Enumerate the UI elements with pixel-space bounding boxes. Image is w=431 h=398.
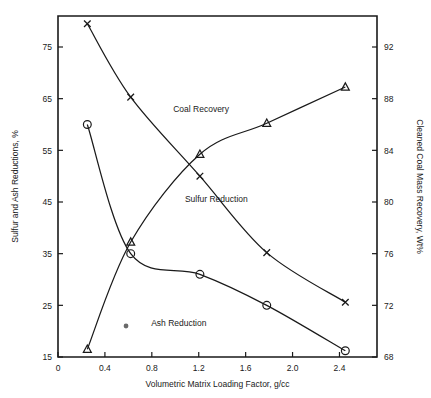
series-curve-coal-recovery xyxy=(87,87,345,349)
y2-axis-label: Cleaned Coal Mass Recovery, Wt% xyxy=(415,119,425,254)
series-label-sulfur-reduction: Sulfur Reduction xyxy=(185,194,248,204)
y-tick-label: 15 xyxy=(43,352,53,362)
y-tick-label: 35 xyxy=(43,249,53,259)
series-marker-sulfur-reduction xyxy=(342,299,349,306)
series-curve-ash-reduction xyxy=(87,125,345,351)
series-marker-ash-reduction xyxy=(83,121,91,129)
y2-tick-label: 88 xyxy=(384,94,394,104)
plot-frame xyxy=(58,16,377,357)
y2-tick-label: 68 xyxy=(384,352,394,362)
chart-svg: 00.40.81.21.62.02.4152535455565756872768… xyxy=(0,0,431,398)
x-tick-label: 1.2 xyxy=(193,363,205,373)
series-marker-sulfur-reduction xyxy=(127,94,134,101)
y-axis-label: Sulfur and Ash Reductions, % xyxy=(10,130,20,243)
stray-point-marker xyxy=(124,324,129,329)
series-marker-ash-reduction xyxy=(341,347,349,355)
y2-tick-label: 76 xyxy=(384,249,394,259)
x-tick-label: 0.8 xyxy=(146,363,158,373)
y-tick-label: 55 xyxy=(43,146,53,156)
chart-figure: 00.40.81.21.62.02.4152535455565756872768… xyxy=(0,0,431,398)
series-marker-sulfur-reduction xyxy=(84,20,91,27)
x-axis-label: Volumetric Matrix Loading Factor, g/cc xyxy=(145,379,290,389)
y-tick-label: 65 xyxy=(43,94,53,104)
x-tick-label: 0.4 xyxy=(99,363,111,373)
y2-tick-label: 72 xyxy=(384,301,394,311)
series-curve-sulfur-reduction xyxy=(87,24,345,302)
x-tick-label: 2.0 xyxy=(287,363,299,373)
x-tick-label: 0 xyxy=(56,363,61,373)
series-marker-sulfur-reduction xyxy=(263,249,270,256)
series-label-ash-reduction: Ash Reduction xyxy=(151,318,207,328)
y-tick-label: 75 xyxy=(43,42,53,52)
y2-tick-label: 80 xyxy=(384,197,394,207)
y-tick-label: 25 xyxy=(43,301,53,311)
series-label-coal-recovery: Coal Recovery xyxy=(173,104,229,114)
series-marker-sulfur-reduction xyxy=(197,173,204,180)
x-tick-label: 2.4 xyxy=(334,363,346,373)
y-tick-label: 45 xyxy=(43,197,53,207)
series-marker-coal-recovery xyxy=(341,83,349,90)
x-tick-label: 1.6 xyxy=(240,363,252,373)
y2-tick-label: 84 xyxy=(384,146,394,156)
y2-tick-label: 92 xyxy=(384,42,394,52)
